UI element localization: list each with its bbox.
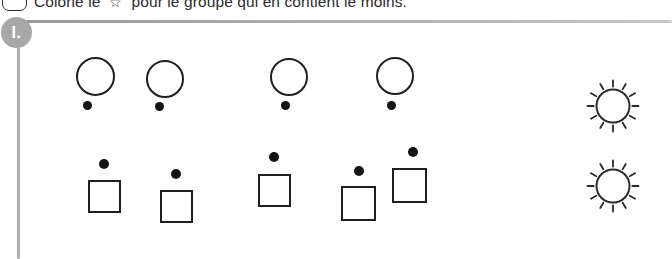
instruction-text-before: Colorie le: [34, 0, 100, 10]
count-dot: [99, 159, 109, 169]
instruction-text-after: pour le groupe qui en contient le moins.: [131, 0, 406, 10]
rounded-checkbox-icon[interactable]: [2, 0, 27, 11]
circle-shape: [270, 58, 308, 96]
section-left-rail: [17, 22, 20, 259]
count-dot: [387, 101, 396, 110]
count-dot: [155, 102, 164, 111]
exercise-number-badge: I.: [1, 17, 32, 48]
square-shape: [160, 190, 193, 223]
count-dot: [354, 166, 364, 176]
square-shape: [88, 180, 121, 213]
star-outline-icon: ☆: [107, 0, 124, 10]
count-dot: [83, 101, 92, 110]
instruction-row: Colorie le ☆ pour le groupe qui en conti…: [0, 0, 672, 15]
star-target-squares[interactable]: [585, 158, 641, 214]
count-dot: [281, 101, 290, 110]
square-shape: [392, 168, 427, 203]
worksheet-page: Colorie le ☆ pour le groupe qui en conti…: [0, 0, 672, 259]
circle-shape: [146, 60, 184, 98]
section-divider-rule: [17, 20, 672, 23]
square-shape: [341, 186, 376, 221]
square-shape: [258, 174, 291, 207]
circle-shape: [376, 57, 414, 95]
count-dot: [171, 169, 181, 179]
count-dot: [408, 147, 418, 157]
circle-shape: [76, 57, 115, 96]
star-target-circles[interactable]: [585, 78, 641, 134]
count-dot: [269, 152, 279, 162]
